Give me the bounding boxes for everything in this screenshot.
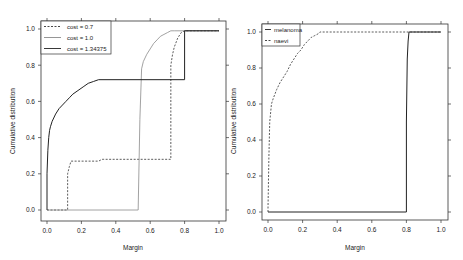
x-tick-label: 0.6 — [146, 227, 155, 234]
y-tick-label: 0.2 — [26, 170, 35, 177]
chart-canvas: 0.00.20.40.60.81.0 0.00.20.40.60.81.0 co… — [0, 0, 463, 260]
x-tick-label: 0.2 — [298, 226, 307, 233]
x-axis-label: Margin — [123, 244, 143, 252]
x-tick-label: 0.8 — [180, 227, 189, 234]
y-tick-label: 0.6 — [26, 98, 35, 105]
y-tick-label: 1.0 — [247, 28, 256, 35]
legend-label: naevi — [274, 38, 288, 44]
x-tick-label: 1.0 — [214, 227, 223, 234]
y-tick-label: 0.0 — [26, 206, 35, 213]
legend: melanomanaevi — [262, 24, 303, 46]
y-tick-label: 0.6 — [247, 100, 256, 107]
legend-label: cost = 1.0 — [67, 35, 94, 41]
x-tick-label: 0.4 — [111, 227, 120, 234]
series-group — [47, 31, 219, 210]
y-tick-label: 0.0 — [247, 208, 256, 215]
x-tick-label: 0.6 — [367, 226, 376, 233]
x-tick-label: 0.0 — [263, 226, 272, 233]
y-tick-label: 0.8 — [26, 62, 35, 69]
y-axis-label: Cumulative distribution — [230, 88, 237, 154]
y-tick-label: 1.0 — [26, 25, 35, 32]
y-tick-label: 0.2 — [247, 172, 256, 179]
x-axis-label: Margin — [345, 244, 365, 252]
legend-label: melanoma — [274, 27, 303, 33]
series-group — [268, 32, 441, 212]
x-tick-label: 0.4 — [333, 226, 342, 233]
plot-left: 0.00.20.40.60.81.0 0.00.20.40.60.81.0 co… — [9, 18, 229, 252]
x-tick-label: 0.8 — [402, 226, 411, 233]
x-axis-ticks: 0.00.20.40.60.81.0 — [263, 21, 445, 233]
y-tick-label: 0.4 — [26, 134, 35, 141]
series-line-cost-1-0 — [47, 31, 219, 210]
y-tick-label: 0.8 — [247, 64, 256, 71]
series-line-cost-1-34375 — [47, 31, 219, 210]
series-line-naevi — [268, 32, 441, 212]
x-tick-label: 1.0 — [436, 226, 445, 233]
y-tick-label: 0.4 — [247, 136, 256, 143]
plot-right: 0.00.20.40.60.81.0 0.00.20.40.60.81.0 me… — [230, 21, 451, 252]
legend-label: cost = 1.34375 — [67, 46, 107, 52]
plot-frame — [262, 24, 448, 220]
y-axis-ticks: 0.00.20.40.60.81.0 — [247, 28, 451, 215]
series-line-cost-0-7 — [47, 31, 219, 210]
legend-label: cost = 0.7 — [67, 24, 94, 30]
figure: 0.00.20.40.60.81.0 0.00.20.40.60.81.0 co… — [0, 0, 463, 260]
x-tick-label: 0.2 — [77, 227, 86, 234]
y-axis-label: Cumulative distribution — [9, 88, 16, 154]
legend: cost = 0.7cost = 1.0cost = 1.34375 — [41, 21, 111, 54]
x-tick-label: 0.0 — [42, 227, 51, 234]
